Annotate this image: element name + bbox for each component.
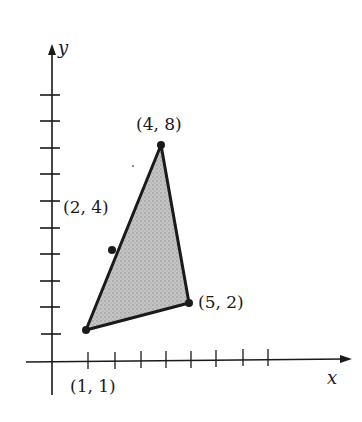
stray-dot (132, 165, 134, 167)
x-axis-ticks (88, 349, 268, 369)
y-axis-label: y (57, 37, 69, 58)
vertex-label-1-1: (1, 1) (70, 376, 116, 396)
vertex-point-1-1 (82, 326, 90, 334)
vertex-label-5-2: (5, 2) (198, 292, 244, 312)
triangle (82, 141, 193, 334)
vertex-label-4-8: (4, 8) (136, 114, 182, 134)
edge-point-label-2-4: (2, 4) (63, 197, 109, 217)
vertex-point-4-8 (157, 141, 165, 149)
edge-point-2-4 (108, 246, 116, 254)
y-axis-arrow-icon (48, 44, 56, 55)
x-axis-label: x (327, 367, 337, 388)
y-axis-ticks (40, 95, 61, 334)
coordinate-diagram: y x (4, 8) (2, 4) (5, 2) (1, 1) (0, 0, 362, 422)
x-axis-arrow-icon (340, 355, 352, 363)
shaded-triangle-region (86, 145, 189, 330)
vertex-point-5-2 (185, 299, 193, 307)
